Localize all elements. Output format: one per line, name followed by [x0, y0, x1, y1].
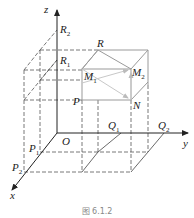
figure-caption: 图 6.1.2 [0, 205, 194, 216]
point-Q2-label: Q2 [158, 120, 169, 134]
point-R-label: R [97, 38, 104, 49]
point-P2-label: P2 [12, 162, 22, 176]
point-R1-label: R1 [60, 55, 70, 69]
origin-label: O [62, 136, 70, 147]
point-R2-label: R2 [60, 24, 70, 38]
diagram-lines [0, 0, 194, 218]
y-axis-label: y [183, 138, 188, 149]
z-axis-label: z [44, 4, 48, 15]
x-axis-label: x [10, 190, 15, 201]
point-P1-label: P1 [29, 143, 39, 157]
coordinate-diagram: z y x O R2 R1 R M1 M2 N P P1 P2 Q1 Q2 图 … [0, 0, 194, 218]
point-Q1-label: Q1 [108, 120, 119, 134]
point-P-label: P [73, 96, 80, 107]
point-N-label: N [133, 100, 140, 111]
point-M2-label: M2 [132, 67, 145, 81]
point-M1-label: M1 [84, 71, 97, 85]
